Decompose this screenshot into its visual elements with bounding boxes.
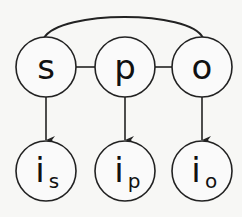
node-s-label: s: [37, 47, 55, 87]
node-p-label: p: [114, 47, 136, 87]
node-i-p-subscript: p: [128, 169, 141, 193]
node-i-o-subscript: o: [205, 169, 217, 193]
diagram-svg: s p o i s i p i o: [0, 0, 242, 217]
node-i-s-label: i: [35, 150, 44, 190]
node-o: o: [172, 37, 232, 97]
node-p: p: [95, 37, 155, 97]
node-i-s-subscript: s: [49, 169, 59, 193]
node-o-label: o: [192, 47, 213, 87]
spo-diagram: s p o i s i p i o: [0, 0, 242, 217]
node-i-o-label: i: [191, 150, 200, 190]
node-i-p-label: i: [114, 150, 123, 190]
edge-s-o-arc: [44, 17, 203, 38]
node-i-s: i s: [16, 141, 76, 201]
node-i-p: i p: [95, 141, 155, 201]
node-i-o: i o: [172, 141, 232, 201]
node-s: s: [16, 37, 76, 97]
